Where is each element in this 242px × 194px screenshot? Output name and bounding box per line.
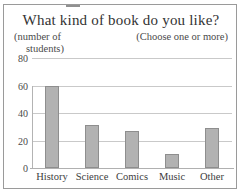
- y-tick-label-0: 0: [23, 163, 28, 174]
- bar-slot: [192, 58, 232, 168]
- y-tick-label-40: 40: [18, 108, 28, 119]
- bar-slot: [152, 58, 192, 168]
- y-axis-caption-line1: (number of: [14, 31, 61, 42]
- chart-title: What kind of book do you like?: [4, 12, 238, 29]
- y-axis-caption: (number of students): [14, 31, 64, 54]
- x-tick-label-comics: Comics: [110, 171, 154, 182]
- x-tick-label-history: History: [30, 171, 74, 182]
- bar-music: [165, 154, 179, 168]
- x-tick-label-other: Other: [190, 171, 234, 182]
- bar-other: [205, 128, 219, 168]
- bar-slot: [72, 58, 112, 168]
- plot-area: 020406080 HistoryScienceComicsMusicOther: [32, 58, 232, 168]
- x-axis-line: [30, 168, 234, 169]
- chart-figure: What kind of book do you like? (number o…: [3, 4, 237, 189]
- bar-history: [45, 86, 59, 169]
- scan-artifact: [66, 5, 80, 7]
- x-tick-label-music: Music: [150, 171, 194, 182]
- bar-slot: [32, 58, 72, 168]
- bar-comics: [125, 131, 139, 168]
- bar-slot: [112, 58, 152, 168]
- bar-science: [85, 125, 99, 168]
- y-tick-label-80: 80: [18, 53, 28, 64]
- y-tick-label-60: 60: [18, 80, 28, 91]
- y-tick-label-20: 20: [18, 135, 28, 146]
- chart-note: (Choose one or more): [136, 31, 228, 42]
- x-tick-label-science: Science: [70, 171, 114, 182]
- bar-series: [32, 58, 232, 168]
